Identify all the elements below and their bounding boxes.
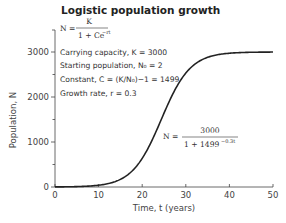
x-tick-label: 20: [137, 190, 148, 200]
specific-formula: N = 3000 1 + 1499 −0.3t: [163, 126, 238, 149]
x-tick-label: 0: [52, 190, 57, 200]
x-axis-label: Time, t (years): [132, 203, 195, 213]
general-formula-exponent: −rt: [102, 29, 111, 35]
chart-title: Logistic population growth: [61, 4, 220, 16]
general-formula-numerator: K: [86, 17, 92, 26]
general-formula-lhs: N =: [60, 24, 75, 33]
x-tick-label: 40: [224, 190, 235, 200]
parameter-growth-rate: Growth rate, r = 0.3: [60, 89, 137, 98]
y-tick-label: 2000: [27, 92, 49, 102]
y-tick-label: 1000: [27, 137, 49, 147]
parameter-list: Carrying capacity, K = 3000 Starting pop…: [60, 48, 180, 98]
y-tick-label: 0: [44, 182, 49, 192]
general-formula: N = K 1 + Ce −rt: [60, 17, 111, 40]
parameter-starting-population: Starting population, N₀ = 2: [60, 61, 163, 70]
y-tick-label: 3000: [27, 47, 49, 57]
logistic-curve: [55, 52, 273, 187]
logistic-growth-chart: Logistic population growth 0102030405001…: [0, 0, 286, 223]
x-tick-label: 50: [268, 190, 279, 200]
x-tick-label: 30: [180, 190, 191, 200]
parameter-carrying-capacity: Carrying capacity, K = 3000: [60, 48, 167, 57]
specific-formula-denominator: 1 + 1499: [184, 140, 220, 149]
x-tick-label: 10: [93, 190, 104, 200]
parameter-constant: Constant, C = (K/N₀)−1 = 1499: [60, 75, 180, 84]
general-formula-denominator: 1 + Ce: [78, 31, 105, 40]
specific-formula-numerator: 3000: [200, 126, 219, 135]
specific-formula-exponent: −0.3t: [221, 138, 235, 144]
specific-formula-lhs: N =: [163, 132, 178, 141]
y-axis-label: Population, N: [8, 92, 18, 148]
